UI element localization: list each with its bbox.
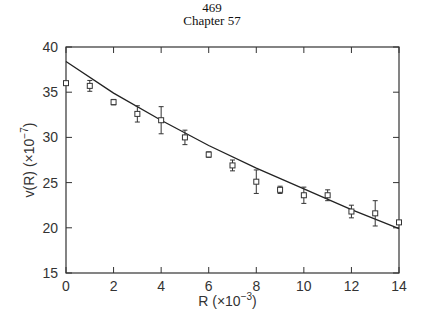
data-point <box>254 179 259 184</box>
y-axis-label: v(R) (×10−7) <box>19 123 37 198</box>
data-point <box>206 152 211 157</box>
x-tick-label: 6 <box>205 278 213 294</box>
data-point <box>135 111 140 116</box>
data-point <box>111 100 116 105</box>
data-point <box>64 81 69 86</box>
fit-curve <box>66 62 399 229</box>
x-tick-label: 8 <box>252 278 260 294</box>
x-axis-label: R (×10−3) <box>198 291 257 309</box>
y-tick-label: 15 <box>42 265 58 281</box>
data-point <box>397 220 402 225</box>
data-point <box>87 83 92 88</box>
y-tick-label: 25 <box>42 175 58 191</box>
data-point <box>159 118 164 123</box>
x-tick-label: 10 <box>296 278 312 294</box>
data-point <box>182 135 187 140</box>
x-tick-label: 12 <box>344 278 360 294</box>
chart: 02468101214152025303540R (×10−3)v(R) (×1… <box>0 0 424 312</box>
x-tick-label: 4 <box>157 278 165 294</box>
data-point <box>278 187 283 192</box>
x-tick-label: 0 <box>62 278 70 294</box>
data-point <box>349 209 354 214</box>
y-tick-label: 20 <box>42 220 58 236</box>
y-tick-label: 40 <box>42 39 58 55</box>
data-point <box>230 163 235 168</box>
y-tick-label: 30 <box>42 129 58 145</box>
x-tick-label: 2 <box>110 278 118 294</box>
x-tick-label: 14 <box>391 278 407 294</box>
data-point <box>325 193 330 198</box>
data-point <box>373 211 378 216</box>
y-tick-label: 35 <box>42 84 58 100</box>
data-point <box>301 193 306 198</box>
